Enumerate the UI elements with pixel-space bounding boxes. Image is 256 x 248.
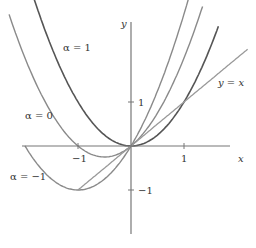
curve-alpha-1 <box>20 0 219 146</box>
chart-container: −1 1 1 −1 x y α = 1 α = 0 α = −1 y = x <box>0 0 256 248</box>
x-axis-label: x <box>238 153 244 164</box>
line-y-equals-x <box>78 49 248 190</box>
curve-alpha-neg1 <box>25 0 189 190</box>
y-axis-label: y <box>120 18 127 29</box>
curves-group <box>9 0 248 190</box>
y-tick-label-neg1: −1 <box>138 185 153 196</box>
label-alpha-neg1: α = −1 <box>10 171 46 182</box>
label-y-equals-x: y = x <box>217 77 244 88</box>
curve-alpha-0 <box>9 6 203 157</box>
label-alpha-1: α = 1 <box>63 42 91 53</box>
y-tick-label-pos1: 1 <box>138 97 144 108</box>
x-tick-label-neg1: −1 <box>72 153 87 164</box>
label-alpha-0: α = 0 <box>25 110 53 121</box>
x-tick-label-pos1: 1 <box>181 153 187 164</box>
plot-area: −1 1 1 −1 x y α = 1 α = 0 α = −1 y = x <box>0 0 256 248</box>
